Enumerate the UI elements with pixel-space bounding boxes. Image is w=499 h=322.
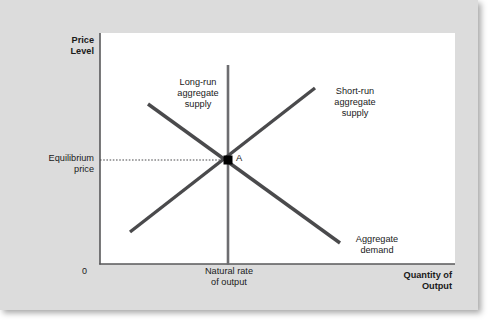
y-axis-label: Price Level xyxy=(34,35,94,57)
natural-rate-of-output-label: Natural rate of output xyxy=(184,266,274,288)
figure-container: Price Level Equilibrium price 0 Long-run… xyxy=(0,0,499,322)
long-run-aggregate-supply-label: Long-run aggregate supply xyxy=(170,77,226,111)
aggregate-demand-label: Aggregate demand xyxy=(343,234,411,256)
aggregate-demand-curve xyxy=(148,104,340,243)
equilibrium-price-label: Equilibrium price xyxy=(14,153,94,175)
x-axis-label: Quantity of Output xyxy=(338,270,452,292)
equilibrium-point-marker xyxy=(224,156,233,165)
origin-label: 0 xyxy=(82,266,96,277)
short-run-aggregate-supply-label: Short-run aggregate supply xyxy=(322,86,388,120)
equilibrium-point-label: A xyxy=(236,152,248,163)
